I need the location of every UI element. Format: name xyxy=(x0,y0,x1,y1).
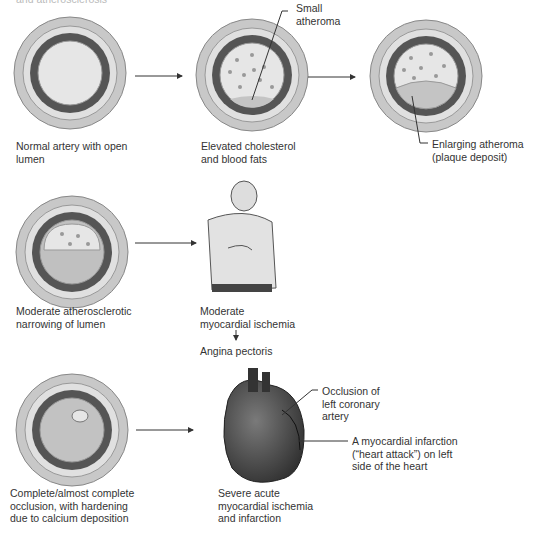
caption-moderate: Moderate atheroscleroticnarrowing of lum… xyxy=(16,305,132,330)
caption-enlarging: Enlarging atheroma(plaque deposit) xyxy=(432,138,524,163)
caption-complete: Complete/almost completeocclusion, with … xyxy=(10,487,134,525)
artery-moderate xyxy=(16,196,128,308)
caption-ischemia: Moderatemyocardial ischemia xyxy=(200,305,295,330)
callout-small-atheroma: Smallatheroma xyxy=(296,2,340,27)
man-chest-pain-illustration xyxy=(208,181,276,292)
artery-normal xyxy=(14,17,126,129)
artery-elevated xyxy=(196,19,308,131)
callout-occlusion: Occlusion ofleft coronaryartery xyxy=(322,385,380,423)
caption-infarction: Severe acutemyocardial ischemiaand infar… xyxy=(218,487,313,525)
heart-illustration xyxy=(224,368,304,482)
caption-elevated: Elevated cholesteroland blood fats xyxy=(201,140,296,165)
callout-mi: A myocardial infarction(“heart attack”) … xyxy=(352,435,458,473)
artery-complete xyxy=(16,374,128,486)
caption-angina: Angina pectoris xyxy=(200,345,272,358)
caption-normal: Normal artery with openlumen xyxy=(16,140,127,165)
artery-enlarging xyxy=(370,20,482,132)
